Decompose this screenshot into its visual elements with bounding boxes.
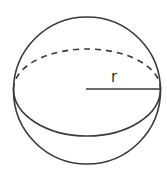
radius-label: r [111, 68, 118, 86]
sphere-svg: r [0, 0, 167, 178]
equator-back-arc [14, 49, 161, 89]
sphere-diagram: r [0, 0, 167, 178]
sphere-outline [14, 17, 161, 164]
equator-front-arc [14, 89, 161, 136]
